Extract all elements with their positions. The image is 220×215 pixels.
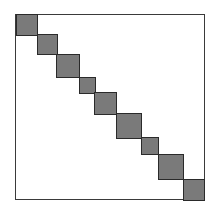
diagonal-block-8 xyxy=(158,154,184,180)
diagonal-block-6 xyxy=(116,113,142,139)
diagonal-block-5 xyxy=(94,92,117,115)
diagonal-block-9 xyxy=(183,179,205,201)
block-diagonal-diagram: Block-diagonal matrix xyxy=(0,0,220,215)
diagonal-block-2 xyxy=(37,34,58,55)
diagonal-block-7 xyxy=(141,137,159,155)
diagonal-block-1 xyxy=(16,14,38,36)
diagonal-block-3 xyxy=(56,54,80,78)
